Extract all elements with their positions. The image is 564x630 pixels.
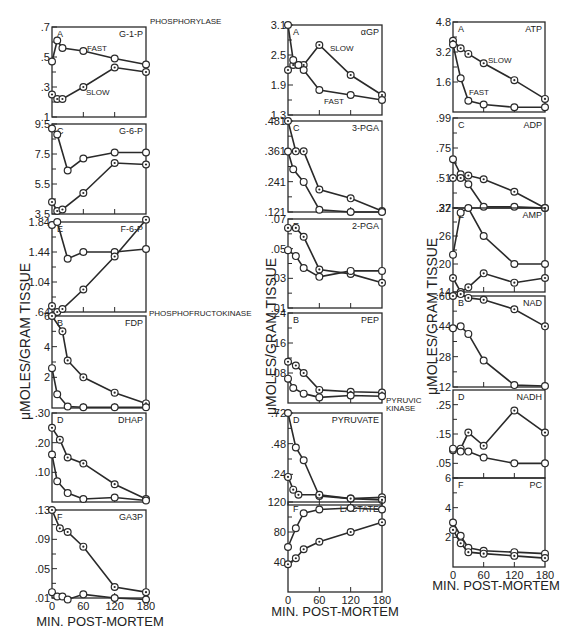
data-point-dot bbox=[114, 392, 116, 394]
data-point-fast bbox=[143, 61, 150, 68]
panel-title: G-1-P bbox=[119, 29, 143, 39]
y-tick-label: .26 bbox=[436, 230, 451, 242]
panel-pc: 642FPC060120180 bbox=[445, 472, 554, 581]
y-tick-label: .13 bbox=[35, 504, 50, 516]
data-point-fast bbox=[64, 596, 71, 603]
panel-letter: F bbox=[458, 480, 464, 490]
y-tick-label: .28 bbox=[436, 351, 451, 363]
data-point-dot bbox=[513, 409, 515, 411]
series-line-slow bbox=[288, 477, 382, 500]
data-point-fast bbox=[111, 55, 118, 62]
annotation-phosphorylase: PHOSPHORYLASE bbox=[150, 17, 221, 26]
data-point-dot bbox=[82, 376, 84, 378]
panel-letter: D bbox=[293, 415, 300, 425]
data-point-fast bbox=[511, 104, 518, 111]
data-point-dot bbox=[287, 227, 289, 229]
data-point-dot bbox=[67, 531, 69, 533]
data-point-fast bbox=[300, 179, 307, 186]
data-point-fast bbox=[347, 92, 354, 99]
data-point-dot bbox=[318, 188, 320, 190]
panel-title: FDP bbox=[125, 318, 143, 328]
data-point-dot bbox=[295, 227, 297, 229]
panel-g1p: .7.5.3.1AG-1-P bbox=[41, 21, 150, 123]
data-point-fast bbox=[457, 75, 464, 82]
y-tick-label: .30 bbox=[35, 407, 50, 419]
data-point-dot bbox=[318, 541, 320, 543]
series-line-fast bbox=[52, 368, 146, 407]
label-fast-agp: FAST bbox=[324, 97, 344, 106]
data-point-dot bbox=[114, 586, 116, 588]
y-tick-label: 4.8 bbox=[436, 16, 451, 28]
series-line-slow bbox=[288, 121, 382, 211]
y-tick-label: .15 bbox=[436, 428, 451, 440]
panel-amp: .32.26.20.14EAMP bbox=[436, 202, 549, 298]
y-tick-label: 6 bbox=[445, 472, 451, 484]
data-point-fast bbox=[379, 268, 386, 275]
panel-pyruvate: .72.48.24DPYRUVATE bbox=[271, 407, 386, 505]
data-point-fast bbox=[450, 519, 457, 526]
data-point-fast bbox=[316, 273, 323, 280]
data-point-fast bbox=[80, 249, 87, 256]
data-point-fast bbox=[54, 219, 61, 226]
y-tick-label: 5.5 bbox=[35, 178, 50, 190]
y-tick-label: 1.6 bbox=[436, 76, 451, 88]
y-tick-label: 2 bbox=[445, 531, 451, 543]
data-point-dot bbox=[483, 445, 485, 447]
data-point-fast bbox=[465, 97, 472, 104]
x-tick-label: 120 bbox=[341, 594, 359, 606]
data-point-fast bbox=[111, 149, 118, 156]
x-tick-label: 60 bbox=[313, 594, 325, 606]
y-tick-label: 1.84 bbox=[29, 216, 50, 228]
y-tick-label: 1.44 bbox=[29, 246, 50, 258]
y-tick-label: .12 bbox=[436, 381, 451, 393]
y-tick-label: .09 bbox=[35, 533, 50, 545]
x-tick-label: 0 bbox=[49, 600, 55, 612]
data-point-dot bbox=[452, 295, 454, 297]
data-point-dot bbox=[56, 210, 58, 212]
panel-title: ATP bbox=[525, 24, 542, 34]
data-point-dot bbox=[292, 489, 294, 491]
y-tick-label: .16 bbox=[271, 337, 286, 349]
data-point-dot bbox=[114, 162, 116, 164]
data-point-fast bbox=[49, 58, 56, 65]
data-point-dot bbox=[467, 53, 469, 55]
data-point-fast bbox=[347, 268, 354, 275]
y-tick-label: .01 bbox=[35, 592, 50, 604]
y-tick-label: 1.04 bbox=[29, 276, 50, 288]
data-point-fast bbox=[59, 45, 66, 52]
y-tick-label: .44 bbox=[436, 320, 451, 332]
data-point-dot bbox=[61, 208, 63, 210]
data-point-dot bbox=[303, 548, 305, 550]
data-point-fast bbox=[300, 265, 307, 272]
data-point-fast bbox=[49, 125, 56, 132]
data-point-fast bbox=[80, 48, 87, 55]
series-line-slow bbox=[52, 510, 146, 592]
data-point-dot bbox=[287, 476, 289, 478]
data-point-dot bbox=[318, 268, 320, 270]
data-point-dot bbox=[287, 361, 289, 363]
data-point-fast bbox=[300, 510, 307, 517]
panel-letter: B bbox=[458, 298, 464, 308]
data-point-fast bbox=[316, 87, 323, 94]
data-point-dot bbox=[467, 174, 469, 176]
y-tick-label: .03 bbox=[271, 272, 286, 284]
y-tick-label: .24 bbox=[271, 307, 286, 319]
data-point-fast bbox=[54, 131, 61, 138]
data-point-dot bbox=[51, 93, 53, 95]
data-point-dot bbox=[381, 94, 383, 96]
data-point-fast bbox=[480, 101, 487, 108]
data-point-fast bbox=[54, 391, 61, 398]
y-tick-label: 120 bbox=[268, 496, 286, 508]
data-point-dot bbox=[114, 66, 116, 68]
data-point-dot bbox=[287, 69, 289, 71]
panel-title: αGP bbox=[361, 27, 379, 37]
data-point-dot bbox=[483, 553, 485, 555]
y-tick-label: 9.5 bbox=[35, 118, 50, 130]
data-point-fast bbox=[80, 496, 87, 503]
y-tick-label: .3 bbox=[41, 81, 50, 93]
data-point-fast bbox=[285, 22, 292, 29]
x-tick-label: 0 bbox=[285, 594, 291, 606]
data-point-fast bbox=[285, 375, 292, 382]
panel-title: G-6-P bbox=[119, 126, 143, 136]
data-point-dot bbox=[318, 389, 320, 391]
